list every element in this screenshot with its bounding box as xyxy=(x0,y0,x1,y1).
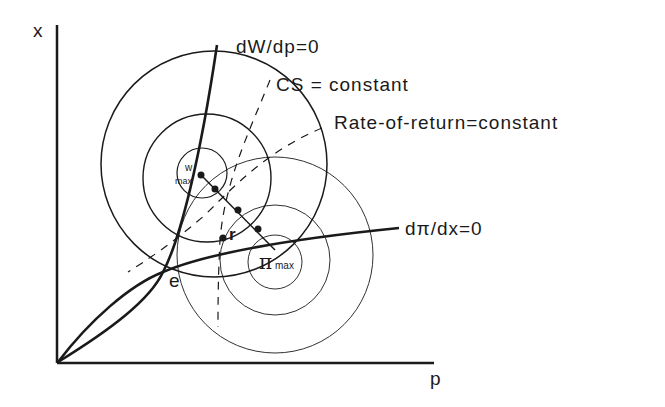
welfare-foc-curve xyxy=(58,45,217,362)
y-axis-label: x xyxy=(33,20,44,42)
regulated-point-label: r xyxy=(229,225,237,245)
regulated-point-dot xyxy=(220,235,227,242)
profit-foc-curve xyxy=(58,228,399,362)
pimax-subscript: max xyxy=(275,260,294,271)
profit-contours xyxy=(177,157,373,353)
profit-foc-label: dπ/dx=0 xyxy=(405,218,483,240)
rate-of-return-label: Rate-of-return=constant xyxy=(334,112,558,134)
x-axis-label: p xyxy=(430,368,442,390)
welfare-foc-label: dW/dp=0 xyxy=(236,36,320,58)
wmax-label-top: w xyxy=(185,162,192,173)
equilibrium-point-label: e xyxy=(169,270,181,292)
wmax-label-bottom: max xyxy=(175,176,192,186)
pimax-symbol: π xyxy=(259,250,272,274)
diagram-canvas xyxy=(0,0,665,407)
cs-constant-label: CS = constant xyxy=(276,74,409,96)
